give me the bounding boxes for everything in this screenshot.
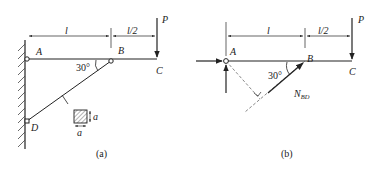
caption-a: (a) [96, 148, 107, 160]
cross-section [74, 110, 90, 126]
figure-b: A B C P l l/2 30° NBD (b) [196, 14, 364, 160]
label-b: B [118, 45, 124, 56]
label-c: C [156, 65, 163, 76]
dimension-lines [226, 22, 350, 56]
label-l-half: l/2 [318, 25, 329, 36]
figure-a: A B C D P l l/2 30° a a (a) [18, 14, 168, 160]
label-a: A [35, 46, 43, 57]
label-l: l [267, 25, 270, 36]
caption-b: (b) [281, 148, 293, 160]
label-p: P [161, 14, 168, 25]
label-l-half: l/2 [127, 25, 138, 36]
label-d: D [30, 122, 39, 133]
pin-a [224, 59, 229, 64]
fixed-wall [18, 40, 25, 149]
pin-b [109, 59, 113, 63]
right-angle-mark [254, 92, 261, 96]
angle-arc [286, 62, 290, 75]
label-a: A [229, 46, 237, 57]
label-force-sub: BD [301, 93, 310, 100]
label-angle: 30° [268, 70, 282, 81]
label-section-a-side: a [93, 111, 98, 122]
label-force-nbd: NBD [293, 88, 310, 100]
label-p: P [357, 14, 364, 25]
label-c: C [349, 66, 356, 77]
pin-d [25, 119, 29, 123]
label-angle: 30° [76, 62, 90, 73]
angle-arc [95, 60, 98, 71]
pin-a [25, 57, 29, 61]
rod-bd [27, 61, 111, 121]
label-b: B [307, 53, 313, 64]
section-cut-mark [62, 95, 68, 104]
label-l: l [65, 25, 68, 36]
label-section-a-bottom: a [77, 127, 82, 138]
diagram-canvas: A B C D P l l/2 30° a a (a) [0, 0, 373, 170]
